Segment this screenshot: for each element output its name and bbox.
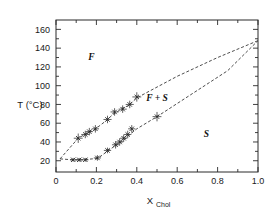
x-tick-label: 0.2 — [90, 176, 103, 186]
x-tick-label: 0 — [53, 176, 58, 186]
x-tick-label: 0.6 — [171, 176, 184, 186]
y-tick-label: 100 — [35, 81, 50, 91]
y-axis-title: T (°C) — [17, 99, 42, 110]
phase-diagram-plot: 2040608010012014016000.20.40.60.81.0 FF … — [0, 0, 276, 222]
x-tick-label: 1.0 — [252, 176, 265, 186]
x-tick-label: 0.8 — [211, 176, 224, 186]
y-tick-label: 120 — [35, 62, 50, 72]
phase-diagram-figure: 2040608010012014016000.20.40.60.81.0 FF … — [0, 0, 276, 222]
y-tick-label: 60 — [40, 118, 50, 128]
y-tick-label: 160 — [35, 25, 50, 35]
y-tick-label: 20 — [40, 156, 50, 166]
x-axis-title: X — [147, 195, 154, 206]
region-label-fs: F + S — [145, 93, 168, 103]
x-axis-title-subscript: Chol — [156, 201, 171, 208]
region-label-s: S — [204, 129, 209, 139]
x-tick-label: 0.4 — [131, 176, 144, 186]
y-tick-label: 40 — [40, 137, 50, 147]
y-tick-label: 140 — [35, 43, 50, 53]
region-label-f: F — [87, 52, 95, 62]
